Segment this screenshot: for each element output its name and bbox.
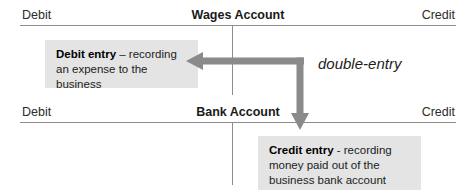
wages-account-horizontal-rule [20, 25, 456, 26]
debit-entry-note-lead: Debit entry [56, 48, 116, 60]
credit-entry-note: Credit entry - recording money paid out … [258, 136, 421, 190]
debit-entry-note: Debit entry – recording an expense to th… [45, 40, 198, 88]
connector-horizontal-shaft [200, 58, 304, 65]
account-header-bank: Debit Bank Account Credit [20, 103, 456, 121]
wages-account-vertical-divider [232, 26, 233, 95]
bank-account-title: Bank Account [20, 103, 456, 121]
bank-credit-side-label: Credit [422, 103, 455, 121]
double-entry-bookkeeping-diagram: Debit Wages Account Credit Debit entry –… [0, 0, 472, 195]
bank-account-vertical-divider [232, 123, 233, 185]
wages-credit-side-label: Credit [422, 6, 455, 24]
double-entry-caption: double-entry [318, 54, 401, 74]
account-header-wages: Debit Wages Account Credit [20, 6, 456, 24]
bank-account-horizontal-rule [20, 122, 456, 123]
credit-entry-note-lead: Credit entry [269, 144, 334, 156]
wages-account-title: Wages Account [20, 6, 456, 24]
